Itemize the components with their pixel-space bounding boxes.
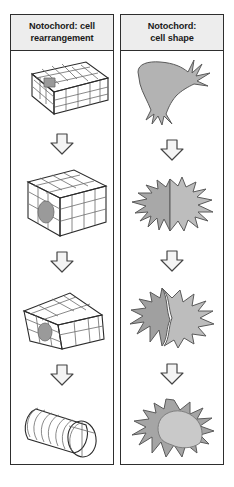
- highlight-cell: [38, 323, 52, 341]
- interdigitated-cells-illustration: [126, 284, 218, 350]
- stage-vacuolated-cell: [123, 397, 221, 459]
- stage-two-stellate-cells: [123, 173, 221, 237]
- stage-arrow-3: [123, 362, 221, 386]
- down-block-arrow-icon: [158, 138, 186, 162]
- panel-header-line1: Notochord:: [123, 21, 221, 33]
- stellate-cell-right: [170, 177, 213, 231]
- down-block-arrow-icon: [158, 249, 186, 273]
- panel-body-cell-rearrangement: [11, 51, 113, 464]
- down-block-arrow-icon: [48, 363, 76, 387]
- down-block-arrow-icon: [158, 362, 186, 386]
- stage-flat-wide-slab: [13, 56, 111, 122]
- notochord-figure: Notochord: cell rearrangement: [0, 0, 234, 487]
- down-block-arrow-icon: [48, 132, 76, 156]
- mesenchymal-cell-illustration: [126, 56, 218, 126]
- stage-arrow-2: [123, 249, 221, 273]
- cylindrical-rod-illustration: [14, 397, 110, 459]
- stage-arrow-1: [13, 132, 111, 156]
- highlight-cell: [38, 201, 54, 223]
- stage-mesenchymal-cell: [123, 56, 221, 126]
- panel-header-line2: cell shape: [123, 33, 221, 45]
- stage-narrow-tall-block: [13, 166, 111, 240]
- panel-cell-rearrangement: Notochord: cell rearrangement: [10, 14, 114, 465]
- flat-wide-slab-illustration: [14, 56, 110, 122]
- panel-header-line2: rearrangement: [13, 33, 111, 45]
- panel-cell-shape: Notochord: cell shape: [120, 14, 224, 465]
- stellate-cell-left: [130, 288, 170, 346]
- down-block-arrow-icon: [48, 250, 76, 274]
- panel-header-cell-shape: Notochord: cell shape: [121, 15, 223, 51]
- stage-tapered-wedge: [13, 285, 111, 353]
- stage-cylindrical-rod: [13, 397, 111, 459]
- tapered-wedge-illustration: [14, 285, 110, 353]
- stage-arrow-2: [13, 250, 111, 274]
- panel-body-cell-shape: [121, 51, 223, 464]
- stage-two-stellate-cells-interdigitated: [123, 284, 221, 350]
- stage-arrow-3: [13, 363, 111, 387]
- stellate-cell-left: [132, 179, 170, 231]
- stage-arrow-1: [123, 138, 221, 162]
- panel-header-cell-rearrangement: Notochord: cell rearrangement: [11, 15, 113, 51]
- panel-header-line1: Notochord: cell: [13, 21, 111, 33]
- two-stellate-cells-illustration: [126, 173, 218, 237]
- narrow-tall-block-illustration: [14, 166, 110, 240]
- vacuolated-cell-illustration: [126, 397, 218, 459]
- highlight-cell: [44, 78, 55, 87]
